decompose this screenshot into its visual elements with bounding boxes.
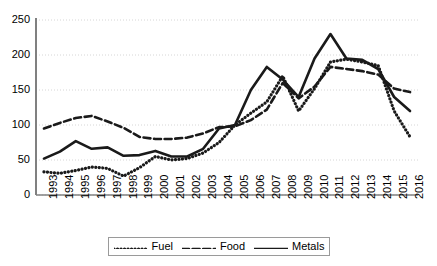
x-tick-label: 1994 [64,175,75,199]
x-tick-label: 1999 [143,175,154,199]
legend-item-metals: Metals [254,241,324,252]
x-tick-label: 1996 [96,175,107,199]
y-tick-label: 100 [0,119,30,130]
x-tick-label: 2010 [319,175,330,199]
x-tick-label: 2004 [223,175,234,199]
line-chart: 050100150200250 199319941995199619971998… [0,0,437,266]
x-tick-label: 2007 [271,175,282,199]
chart-legend: FuelFoodMetals [108,237,330,256]
y-tick-label: 250 [0,14,30,25]
x-tick-label: 2002 [191,175,202,199]
x-tick-label: 2000 [159,175,170,199]
y-tick-label: 200 [0,49,30,60]
x-tick-label: 1993 [48,175,59,199]
series-line-food [44,67,410,139]
x-tick-label: 2009 [303,175,314,199]
legend-label: Food [220,241,245,252]
x-tick-label: 2011 [334,175,345,199]
x-tick-label: 2006 [255,175,266,199]
legend-swatch-solid [254,245,288,249]
x-tick-label: 1995 [80,175,91,199]
x-tick-label: 1998 [128,175,139,199]
x-tick-label: 2008 [287,175,298,199]
x-tick-label: 2014 [382,175,393,199]
legend-swatch-dashed [182,245,216,249]
x-tick-label: 2005 [239,175,250,199]
x-tick-label: 2003 [207,175,218,199]
plot-canvas [0,0,437,266]
legend-item-food: Food [182,241,245,252]
x-tick-label: 2001 [175,175,186,199]
x-tick-label: 2013 [366,175,377,199]
y-tick-label: 150 [0,84,30,95]
legend-item-fuel: Fuel [114,241,173,252]
x-tick-label: 1997 [112,175,123,199]
series-line-metals [44,34,410,159]
legend-swatch-dotted [114,245,148,249]
legend-label: Metals [292,241,324,252]
x-tick-label: 2016 [414,175,425,199]
legend-label: Fuel [152,241,173,252]
y-tick-label: 0 [0,189,30,200]
x-tick-label: 2015 [398,175,409,199]
y-tick-label: 50 [0,154,30,165]
x-tick-label: 2012 [350,175,361,199]
